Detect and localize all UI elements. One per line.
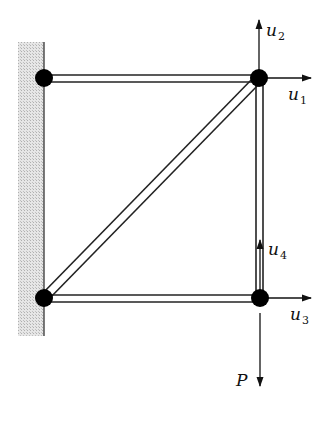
label-load-p: P <box>235 370 248 390</box>
member-top-bar <box>44 75 259 82</box>
member-diagonal-bar <box>41 75 262 301</box>
member-bottom-bar <box>44 295 259 302</box>
label-u1: u1 <box>288 84 307 107</box>
label-u3: u3 <box>290 304 309 327</box>
label-u2: u2 <box>266 20 285 43</box>
truss-diagram: u2 u1 u4 u3 P <box>0 0 334 422</box>
node-top-left <box>35 69 53 87</box>
node-bottom-left <box>35 289 53 307</box>
label-u4: u4 <box>268 239 287 262</box>
node-top-right <box>250 69 268 87</box>
node-bottom-right <box>251 289 269 307</box>
